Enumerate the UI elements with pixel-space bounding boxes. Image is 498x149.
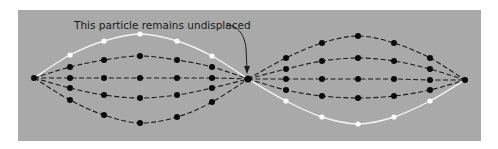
standing-wave-diagram: This particle remains undisplaced bbox=[0, 0, 498, 149]
particle-dot bbox=[101, 112, 107, 118]
particle-dot bbox=[355, 121, 360, 126]
particle-dot bbox=[101, 92, 107, 98]
particle-dot bbox=[174, 57, 180, 63]
node-point-right bbox=[462, 77, 468, 83]
particle-dot bbox=[283, 98, 288, 103]
particle-dot bbox=[137, 53, 143, 59]
particle-dot bbox=[137, 31, 142, 36]
particle-dot bbox=[67, 64, 73, 70]
particle-dot bbox=[427, 87, 433, 93]
particle-dot bbox=[174, 92, 180, 98]
particle-dot bbox=[355, 33, 361, 39]
particle-dot bbox=[355, 76, 361, 82]
particle-dot bbox=[137, 75, 143, 81]
particle-dot bbox=[427, 55, 433, 61]
particle-dot bbox=[319, 76, 325, 82]
particle-dot bbox=[137, 120, 143, 126]
particle-dot bbox=[319, 93, 325, 99]
particle-dot bbox=[319, 58, 325, 64]
particle-dot bbox=[67, 97, 73, 103]
particle-dot bbox=[427, 98, 432, 103]
particle-dot bbox=[174, 38, 179, 43]
particle-dot bbox=[101, 75, 107, 81]
particle-dot bbox=[67, 52, 72, 57]
particle-dot bbox=[67, 75, 73, 81]
particle-dot bbox=[319, 114, 324, 119]
particle-dot bbox=[101, 38, 106, 43]
particle-dot bbox=[283, 55, 289, 61]
particle-dot bbox=[67, 85, 73, 91]
particle-dot bbox=[283, 76, 289, 82]
particle-dot bbox=[209, 75, 215, 81]
particle-dot bbox=[427, 77, 433, 83]
particle-dot bbox=[355, 55, 361, 61]
particle-dot bbox=[283, 66, 289, 72]
particle-dot bbox=[209, 99, 215, 105]
particle-dot bbox=[209, 85, 215, 91]
particle-dot bbox=[174, 114, 180, 120]
particle-dot bbox=[209, 64, 215, 70]
particle-dot bbox=[137, 95, 143, 101]
particle-dot bbox=[209, 53, 214, 58]
particle-dot bbox=[391, 40, 397, 46]
particle-dot bbox=[355, 95, 361, 101]
particle-dot bbox=[283, 87, 289, 93]
particle-dot bbox=[391, 114, 396, 119]
particle-dot bbox=[174, 75, 180, 81]
particle-dot bbox=[427, 66, 433, 72]
annotation-label: This particle remains undisplaced bbox=[73, 19, 251, 31]
particle-dot bbox=[391, 93, 397, 99]
particle-dot bbox=[391, 76, 397, 82]
node-point-middle bbox=[244, 75, 251, 82]
particle-dot bbox=[101, 57, 107, 63]
particle-dot bbox=[391, 58, 397, 64]
node-point-left bbox=[31, 75, 37, 81]
particle-dot bbox=[319, 40, 325, 46]
